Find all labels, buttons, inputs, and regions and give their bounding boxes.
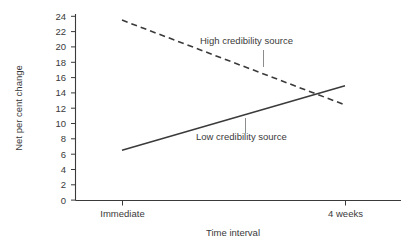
y-tick-label: 22 xyxy=(55,26,66,37)
line-chart: 24 22 20 18 16 14 12 10 8 6 4 2 0 Net pe… xyxy=(0,0,420,243)
series-label-high-credibility-source: High credibility source xyxy=(200,35,293,46)
y-axis-tick-labels: 24 22 20 18 16 14 12 10 8 6 4 2 0 xyxy=(55,11,66,206)
series-label-low-credibility-source: Low credibility source xyxy=(196,131,287,142)
y-tick-label: 6 xyxy=(61,149,66,160)
y-axis-ticks xyxy=(71,16,76,200)
y-axis-title: Net per cent change xyxy=(13,65,24,151)
y-tick-label: 20 xyxy=(55,41,66,52)
series-line-high-credibility-source xyxy=(122,20,345,105)
y-tick-label: 8 xyxy=(61,133,66,144)
x-tick-label: 4 weeks xyxy=(328,208,363,219)
y-tick-label: 2 xyxy=(61,179,66,190)
chart-container: 24 22 20 18 16 14 12 10 8 6 4 2 0 Net pe… xyxy=(0,0,420,243)
y-tick-label: 0 xyxy=(61,195,66,206)
y-tick-label: 16 xyxy=(55,72,66,83)
y-tick-label: 18 xyxy=(55,57,66,68)
y-tick-label: 12 xyxy=(55,103,66,114)
x-axis-title: Time interval xyxy=(206,227,260,238)
y-tick-label: 4 xyxy=(61,164,66,175)
y-tick-label: 24 xyxy=(55,11,66,22)
x-tick-label: Immediate xyxy=(100,208,144,219)
y-tick-label: 10 xyxy=(55,118,66,129)
y-tick-label: 14 xyxy=(55,87,66,98)
x-axis-ticks xyxy=(123,201,346,206)
